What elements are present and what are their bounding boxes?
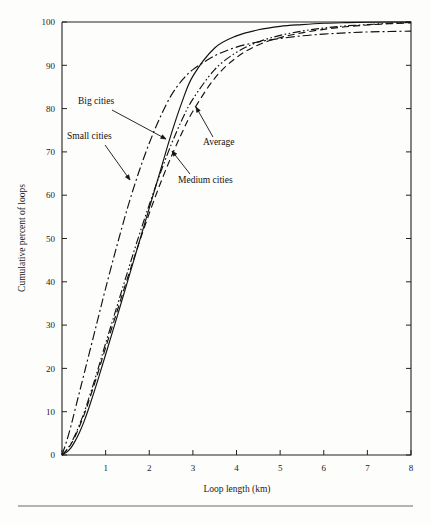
x-tick-label: 7 [365,463,370,473]
figure-background [0,0,431,524]
y-tick-label: 100 [42,17,56,27]
x-tick-label: 1 [103,463,108,473]
y-tick-label: 80 [46,104,56,114]
annotation-label-medium-cities: Medium cities [178,175,233,185]
x-tick-label: 2 [147,463,152,473]
x-tick-label: 8 [409,463,414,473]
figure-container: 12345678 0102030405060708090100 Loop len… [0,0,431,524]
y-tick-label: 20 [46,364,56,374]
y-tick-label: 90 [46,61,56,71]
annotation-label-small-cities: Small cities [67,131,112,141]
x-axis-title: Loop length (km) [203,484,270,495]
annotation-label-big-cities: Big cities [78,96,114,106]
y-tick-label: 70 [46,147,56,157]
x-tick-label: 6 [322,463,327,473]
x-tick-label: 5 [278,463,283,473]
y-tick-label: 30 [46,320,56,330]
x-tick-label: 3 [191,463,196,473]
y-tick-label: 60 [46,190,56,200]
y-tick-label: 10 [46,407,56,417]
y-tick-label: 50 [46,234,56,244]
y-tick-label: 0 [51,450,56,460]
cumulative-loop-length-chart: 12345678 0102030405060708090100 Loop len… [0,0,431,524]
y-tick-label: 40 [46,277,56,287]
y-axis-title: Cumulative percent of loops [17,184,27,292]
annotation-label-average: Average [203,137,234,147]
x-tick-label: 4 [234,463,239,473]
